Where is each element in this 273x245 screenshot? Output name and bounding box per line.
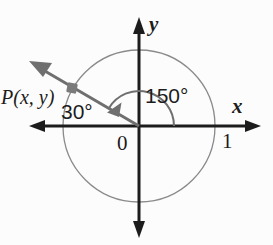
figure-canvas <box>0 0 273 245</box>
reference-angle-label: 30° <box>61 101 93 122</box>
point-p-label: P(x, y) <box>1 87 54 107</box>
x-axis-right-arrowhead <box>245 120 261 132</box>
x-axis-label: x <box>232 96 243 117</box>
y-axis-label: y <box>149 14 158 35</box>
point-p-marker <box>66 82 78 94</box>
y-axis-top-arrowhead <box>133 17 145 34</box>
trig-unit-circle-figure: y x 0 1 P(x, y) 30° 150° <box>0 0 273 245</box>
unit-tick-label: 1 <box>222 131 233 152</box>
y-axis-bottom-arrowhead <box>133 221 145 238</box>
standard-angle-label: 150° <box>145 85 188 106</box>
origin-label: 0 <box>117 133 128 154</box>
x-axis-left-arrowhead <box>29 120 45 132</box>
